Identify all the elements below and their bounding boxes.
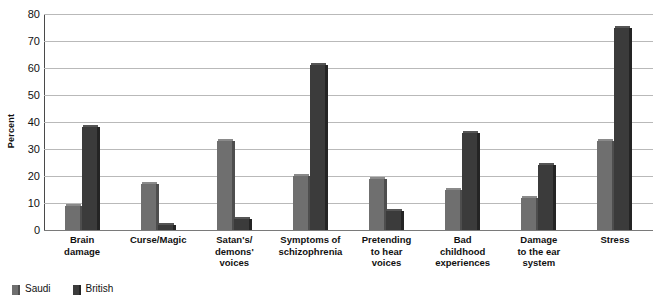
category-label-line: voices <box>352 257 422 269</box>
y-axis-tick-labels: 01020304050607080 <box>14 14 40 230</box>
bar-face <box>234 219 249 230</box>
y-tick-label-20: 20 <box>18 171 40 182</box>
bar-face <box>82 127 97 230</box>
bar-group <box>141 14 176 230</box>
bar-group <box>521 14 556 230</box>
bar-group <box>445 14 480 230</box>
bar-top-highlight <box>598 139 613 141</box>
legend-label: British <box>86 284 114 294</box>
category-label-line: Symptoms of <box>265 234 355 246</box>
legend-swatch-side <box>79 285 81 295</box>
bar-chart: Percent 01020304050607080 BraindamageCur… <box>0 0 659 303</box>
bar-british <box>538 165 553 230</box>
category-label: Satan's/demons'voices <box>199 234 269 269</box>
category-label: Badchildhoodexperiences <box>423 234 503 269</box>
y-tick-label-30: 30 <box>18 144 40 155</box>
bar-face <box>462 133 477 230</box>
bar-face <box>141 184 156 230</box>
y-tick-label-60: 60 <box>18 63 40 74</box>
bar-side-shadow <box>173 225 176 230</box>
bar-british <box>234 219 249 230</box>
bar-face <box>369 179 384 230</box>
category-label-line: to hear <box>352 246 422 258</box>
category-label-line: schizophrenia <box>265 246 355 258</box>
y-tick-label-50: 50 <box>18 90 40 101</box>
category-label-line: Pretending <box>352 234 422 246</box>
bar-saudi <box>65 206 80 230</box>
category-label-line: childhood <box>423 246 503 258</box>
bar-side-shadow <box>477 133 480 230</box>
bar-top-highlight <box>142 182 157 184</box>
bar-top-highlight <box>615 26 630 28</box>
bar-side-shadow <box>249 219 252 230</box>
category-label-line: Curse/Magic <box>119 234 197 246</box>
bar-saudi <box>217 141 232 230</box>
bar-side-shadow <box>401 211 404 230</box>
category-label-line: Brain <box>47 234 117 246</box>
bar-face <box>217 141 232 230</box>
bar-group <box>65 14 100 230</box>
bar-group <box>293 14 328 230</box>
bar-top-highlight <box>294 174 309 176</box>
y-tick-label-10: 10 <box>18 198 40 209</box>
bar-side-shadow <box>97 127 100 230</box>
bar-face <box>158 225 173 230</box>
legend-item-saudi[interactable]: Saudi <box>12 284 51 295</box>
category-label-line: voices <box>199 257 269 269</box>
x-axis-category-labels: BraindamageCurse/MagicSatan's/demons'voi… <box>44 234 653 278</box>
bar-british <box>82 127 97 230</box>
category-label-line: Bad <box>423 234 503 246</box>
bar-side-shadow <box>553 165 556 230</box>
bar-saudi <box>293 176 308 230</box>
plot-area <box>44 14 653 230</box>
category-label-line: Damage <box>499 234 579 246</box>
bar-british <box>386 211 401 230</box>
bar-top-highlight <box>218 139 233 141</box>
category-label-line: system <box>499 257 579 269</box>
category-label-line: damage <box>47 246 117 258</box>
bar-top-highlight <box>446 188 461 190</box>
category-label: Pretendingto hearvoices <box>352 234 422 269</box>
bar-top-highlight <box>387 209 402 211</box>
bar-british <box>462 133 477 230</box>
bar-face <box>293 176 308 230</box>
category-label-line: Satan's/ <box>199 234 269 246</box>
bar-top-highlight <box>159 223 174 225</box>
legend-label: Saudi <box>25 284 51 294</box>
bar-side-shadow <box>325 65 328 230</box>
bar-face <box>386 211 401 230</box>
bar-saudi <box>369 179 384 230</box>
bar-face <box>538 165 553 230</box>
bar-group <box>597 14 632 230</box>
category-label: Curse/Magic <box>119 234 197 246</box>
bar-top-highlight <box>463 131 478 133</box>
legend-item-british[interactable]: British <box>73 284 114 295</box>
bar-group <box>217 14 252 230</box>
bar-face <box>614 28 629 231</box>
bar-saudi <box>521 198 536 230</box>
bar-top-highlight <box>235 217 250 219</box>
category-label: Damageto the earsystem <box>499 234 579 269</box>
bar-british <box>158 225 173 230</box>
y-tick-label-80: 80 <box>18 9 40 20</box>
y-tick-label-40: 40 <box>18 117 40 128</box>
bar-face <box>521 198 536 230</box>
bar-top-highlight <box>311 63 326 65</box>
bar-group <box>369 14 404 230</box>
bar-top-highlight <box>83 125 98 127</box>
category-label-line: experiences <box>423 257 503 269</box>
category-label-line: demons' <box>199 246 269 258</box>
bar-top-highlight <box>370 177 385 179</box>
legend-swatch-side <box>18 285 20 295</box>
bar-face <box>445 190 460 231</box>
category-label: Symptoms ofschizophrenia <box>265 234 355 257</box>
gridline-0 <box>44 230 653 231</box>
bar-face <box>597 141 612 230</box>
bars-layer <box>44 14 653 230</box>
bar-british <box>614 28 629 231</box>
legend-swatch-saudi <box>12 284 20 295</box>
chart-legend: SaudiBritish <box>12 282 135 296</box>
legend-swatch-british <box>73 284 81 295</box>
bar-saudi <box>141 184 156 230</box>
bar-top-highlight <box>522 196 537 198</box>
